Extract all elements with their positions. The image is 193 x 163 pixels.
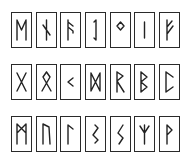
sowilo-z-rune-icon: [88, 120, 103, 148]
rune-tile-sowilo-z[interactable]: [85, 116, 106, 152]
rune-row-3: [11, 116, 180, 152]
berkano-rune-icon: [137, 68, 152, 96]
rune-tile-berkano[interactable]: [134, 64, 155, 100]
rune-tile-kenaz[interactable]: [60, 64, 81, 100]
perthro-rune-icon: [162, 68, 177, 96]
rune-tile-gebo[interactable]: [11, 64, 32, 100]
rune-tile-mannaz[interactable]: [11, 12, 32, 48]
uruz-rune-icon: [39, 120, 54, 148]
rune-tile-dagaz[interactable]: [85, 64, 106, 100]
rune-tile-laguz[interactable]: [60, 116, 81, 152]
rune-tile-raidho[interactable]: [110, 64, 131, 100]
rune-tile-ehwaz[interactable]: [11, 116, 32, 152]
gebo-rune-icon: [14, 68, 29, 96]
ansuz-rune-icon: [63, 16, 78, 44]
rune-tile-othala[interactable]: [36, 64, 57, 100]
rune-tile-algiz[interactable]: [134, 116, 155, 152]
rune-tile-sowilo[interactable]: [110, 116, 131, 152]
sowilo-rune-icon: [113, 120, 128, 148]
rune-tile-ansuz[interactable]: [60, 12, 81, 48]
raidho-rune-icon: [113, 68, 128, 96]
rune-row-2: [11, 64, 180, 100]
laguz-rune-icon: [63, 120, 78, 148]
rune-tile-perthro[interactable]: [159, 64, 180, 100]
kenaz-rune-icon: [63, 68, 78, 96]
isa-rune-icon: [137, 16, 152, 44]
rune-tile-nauthiz[interactable]: [36, 12, 57, 48]
rune-tile-fehu[interactable]: [159, 12, 180, 48]
rune-tile-ingwaz[interactable]: [110, 12, 131, 48]
fehu-rune-icon: [162, 16, 177, 44]
rune-tile-wunjo[interactable]: [159, 116, 180, 152]
rune-tile-eihwaz[interactable]: [85, 12, 106, 48]
dagaz-rune-icon: [88, 68, 103, 96]
rune-row-1: [11, 12, 180, 48]
mannaz-rune-icon: [14, 16, 29, 44]
othala-rune-icon: [39, 68, 54, 96]
eihwaz-rune-icon: [88, 16, 103, 44]
ingwaz-rune-icon: [113, 16, 128, 44]
ehwaz-rune-icon: [14, 120, 29, 148]
algiz-rune-icon: [137, 120, 152, 148]
rune-tile-uruz[interactable]: [36, 116, 57, 152]
nauthiz-rune-icon: [39, 16, 54, 44]
rune-tile-isa[interactable]: [134, 12, 155, 48]
wunjo-rune-icon: [162, 120, 177, 148]
